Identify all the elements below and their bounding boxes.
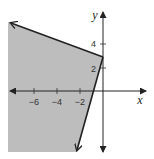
x-axis-label: x	[136, 93, 143, 107]
y-tick-label: 2	[91, 64, 96, 74]
x-tick-label: −4	[52, 97, 62, 107]
shaded-region	[8, 22, 103, 152]
x-tick-label: −2	[75, 97, 85, 107]
y-axis-label: y	[91, 8, 98, 22]
x-tick-label: −6	[29, 97, 39, 107]
y-tick-label: 4	[91, 39, 96, 49]
inequality-graph: −6 −4 −2 4 2 x y	[0, 0, 154, 159]
